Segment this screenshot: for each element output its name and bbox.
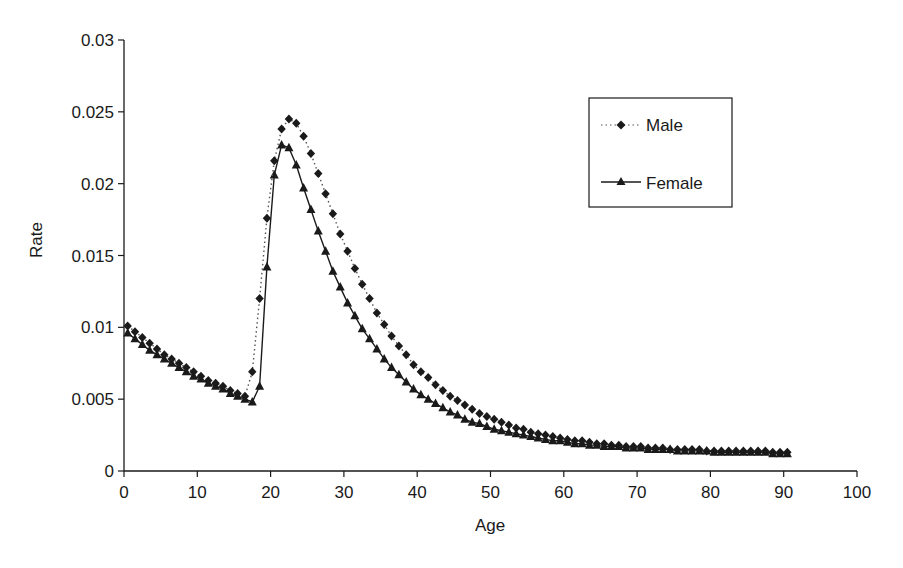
female-triangle-marker — [306, 205, 315, 214]
y-tick-label: 0.015 — [71, 247, 114, 266]
legend: Male Female — [589, 98, 732, 207]
male-diamond-marker — [307, 149, 315, 158]
x-tick-label: 30 — [334, 483, 353, 502]
male-diamond-marker — [211, 379, 219, 388]
x-axis: 0102030405060708090100 — [119, 471, 871, 502]
male-diamond-marker — [241, 392, 249, 401]
male-diamond-marker — [497, 418, 505, 427]
male-diamond-marker — [461, 400, 469, 409]
x-tick-label: 70 — [628, 483, 647, 502]
y-axis: 00.0050.010.0150.020.0250.03 — [71, 31, 124, 481]
female-triangle-marker — [328, 266, 337, 275]
x-tick-label: 80 — [701, 483, 720, 502]
male-diamond-marker — [204, 376, 212, 385]
legend-female-label: Female — [646, 174, 703, 193]
male-diamond-marker — [505, 421, 513, 430]
male-diamond-marker — [424, 373, 432, 382]
female-triangle-marker — [460, 414, 469, 423]
male-diamond-marker — [380, 320, 388, 329]
male-diamond-marker — [321, 189, 329, 198]
y-tick-label: 0.02 — [81, 175, 114, 194]
male-diamond-marker — [226, 386, 234, 395]
male-diamond-marker — [519, 425, 527, 434]
male-diamond-marker — [329, 209, 337, 218]
female-triangle-marker — [270, 170, 279, 179]
female-triangle-marker — [314, 226, 323, 235]
female-triangle-marker — [424, 394, 433, 403]
male-diamond-marker — [453, 396, 461, 405]
male-diamond-marker — [512, 423, 520, 432]
female-triangle-marker — [431, 398, 440, 407]
male-diamond-marker — [343, 247, 351, 256]
x-axis-title: Age — [475, 516, 505, 535]
female-triangle-marker — [292, 160, 301, 169]
y-tick-label: 0.03 — [81, 31, 114, 50]
male-diamond-marker — [490, 415, 498, 424]
male-diamond-marker — [475, 409, 483, 418]
male-diamond-marker — [351, 264, 359, 273]
male-diamond-marker — [336, 229, 344, 238]
male-diamond-marker — [299, 132, 307, 141]
female-triangle-marker — [343, 298, 352, 307]
x-tick-label: 50 — [481, 483, 500, 502]
male-diamond-marker — [314, 169, 322, 178]
female-triangle-marker — [358, 324, 367, 333]
legend-male-label: Male — [646, 116, 683, 135]
y-axis-title: Rate — [27, 222, 46, 258]
x-tick-label: 60 — [554, 483, 573, 502]
female-triangle-marker — [336, 282, 345, 291]
male-diamond-marker — [123, 321, 131, 330]
y-tick-label: 0 — [105, 462, 114, 481]
male-diamond-marker — [483, 412, 491, 421]
female-triangle-marker — [255, 381, 264, 390]
male-diamond-marker — [285, 115, 293, 124]
male-diamond-marker — [365, 294, 373, 303]
male-diamond-marker — [233, 389, 241, 398]
male-diamond-marker — [248, 367, 256, 376]
female-triangle-marker — [416, 390, 425, 399]
male-diamond-marker — [468, 405, 476, 414]
x-tick-label: 40 — [408, 483, 427, 502]
male-diamond-marker — [402, 350, 410, 359]
y-tick-label: 0.025 — [71, 103, 114, 122]
female-triangle-marker — [438, 403, 447, 412]
line-chart: 00.0050.010.0150.020.0250.03 01020304050… — [0, 0, 903, 568]
x-tick-label: 0 — [119, 483, 128, 502]
male-diamond-marker — [292, 119, 300, 128]
female-triangle-marker — [299, 183, 308, 192]
x-tick-label: 20 — [261, 483, 280, 502]
male-diamond-marker — [197, 372, 205, 381]
female-triangle-marker — [321, 246, 330, 255]
male-diamond-marker — [373, 308, 381, 317]
male-diamond-marker — [277, 125, 285, 134]
male-diamond-marker — [431, 380, 439, 389]
female-triangle-marker — [262, 262, 271, 271]
male-diamond-marker — [358, 280, 366, 289]
male-diamond-marker — [417, 367, 425, 376]
y-tick-label: 0.005 — [71, 390, 114, 409]
x-tick-label: 100 — [843, 483, 871, 502]
x-tick-label: 10 — [188, 483, 207, 502]
male-diamond-marker — [255, 294, 263, 303]
female-triangle-marker — [350, 311, 359, 320]
x-tick-label: 90 — [774, 483, 793, 502]
male-diamond-marker — [219, 382, 227, 391]
y-tick-label: 0.01 — [81, 318, 114, 337]
female-triangle-marker — [446, 407, 455, 416]
